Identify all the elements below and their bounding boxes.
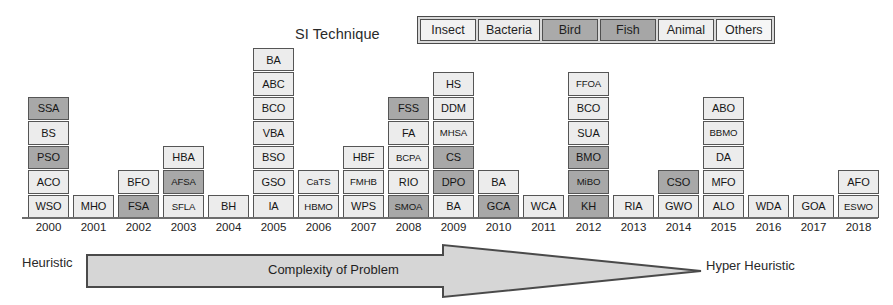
legend-item-bird[interactable]: Bird (542, 19, 598, 41)
year-column-2010: GCABA (478, 169, 519, 218)
year-column-2000: WSOACOPSOBSSSA (28, 96, 69, 218)
year-column-2011: WCA (523, 194, 564, 218)
technique-cell[interactable]: RIA (613, 195, 654, 218)
year-column-2012: KHMiBOBMOSUABCOFFOA (568, 71, 609, 218)
technique-cell[interactable]: WPS (343, 195, 384, 218)
technique-cell[interactable]: HBMO (298, 195, 339, 218)
complexity-arrow-label: Complexity of Problem (268, 262, 399, 277)
technique-cell[interactable]: SMOA (388, 195, 429, 218)
year-column-2018: ESWOAFO (838, 169, 879, 218)
technique-cell[interactable]: GWO (658, 195, 699, 218)
x-tick-2004: 2004 (208, 221, 249, 233)
technique-cell[interactable]: ESWO (838, 195, 879, 218)
x-tick-2009: 2009 (433, 221, 474, 233)
technique-cell[interactable]: GSO (253, 170, 294, 193)
x-tick-2006: 2006 (298, 221, 339, 233)
x-axis-line (22, 217, 878, 219)
technique-cell[interactable]: RIO (388, 170, 429, 193)
technique-cell[interactable]: PSO (28, 146, 69, 169)
year-column-2002: FSABFO (118, 169, 159, 218)
technique-cell[interactable]: WSO (28, 195, 69, 218)
year-column-2006: HBMOCaTS (298, 169, 339, 218)
technique-cell[interactable]: DDM (433, 97, 474, 120)
technique-cell[interactable]: HS (433, 72, 474, 95)
technique-cell[interactable]: FSA (118, 195, 159, 218)
technique-cell[interactable]: SUA (568, 121, 609, 144)
technique-cell[interactable]: CSO (658, 170, 699, 193)
x-tick-2016: 2016 (748, 221, 789, 233)
technique-cell[interactable]: WDA (748, 195, 789, 218)
technique-cell[interactable]: SFLA (163, 195, 204, 218)
year-column-2007: WPSFMHBHBF (343, 145, 384, 218)
technique-cell[interactable]: DPO (433, 170, 474, 193)
x-tick-2014: 2014 (658, 221, 699, 233)
technique-cell[interactable]: BCO (253, 97, 294, 120)
technique-cell[interactable]: MHSA (433, 121, 474, 144)
technique-cell[interactable]: BS (28, 121, 69, 144)
year-column-2017: GOA (793, 194, 834, 218)
technique-cell[interactable]: AFSA (163, 170, 204, 193)
legend-item-insect[interactable]: Insect (420, 19, 476, 41)
technique-cell[interactable]: ALO (703, 195, 744, 218)
technique-cell[interactable]: VBA (253, 121, 294, 144)
technique-cell[interactable]: KH (568, 195, 609, 218)
x-tick-2010: 2010 (478, 221, 519, 233)
x-tick-2002: 2002 (118, 221, 159, 233)
technique-cell[interactable]: ABC (253, 72, 294, 95)
technique-cell[interactable]: ABO (703, 97, 744, 120)
technique-cell[interactable]: ACO (28, 170, 69, 193)
x-tick-2017: 2017 (793, 221, 834, 233)
complexity-arrow-band: Heuristic Hyper Heuristic Complexity of … (0, 243, 893, 305)
technique-cell[interactable]: SSA (28, 97, 69, 120)
technique-cell[interactable]: BH (208, 195, 249, 218)
x-tick-2012: 2012 (568, 221, 609, 233)
technique-cell[interactable]: MHO (73, 195, 114, 218)
x-axis-tick-labels: 2000200120022003200420052006200720082009… (0, 221, 893, 239)
technique-cell[interactable]: FFOA (568, 72, 609, 95)
legend-item-others[interactable]: Others (716, 19, 772, 41)
technique-cell[interactable]: BA (253, 48, 294, 71)
x-tick-2018: 2018 (838, 221, 879, 233)
x-tick-2003: 2003 (163, 221, 204, 233)
technique-cell[interactable]: CS (433, 146, 474, 169)
x-tick-2011: 2011 (523, 221, 564, 233)
year-column-2009: BADPOCSMHSADDMHS (433, 71, 474, 218)
technique-cell[interactable]: BA (478, 170, 519, 193)
technique-cell[interactable]: BFO (118, 170, 159, 193)
technique-cell[interactable]: FA (388, 121, 429, 144)
legend-title: SI Technique (295, 26, 380, 42)
technique-cell[interactable]: AFO (838, 170, 879, 193)
technique-cell[interactable]: BMO (568, 146, 609, 169)
x-tick-2008: 2008 (388, 221, 429, 233)
technique-cell[interactable]: FMHB (343, 170, 384, 193)
technique-cell[interactable]: WCA (523, 195, 564, 218)
technique-cell[interactable]: GCA (478, 195, 519, 218)
legend-item-bacteria[interactable]: Bacteria (478, 19, 540, 41)
technique-cell[interactable]: DA (703, 146, 744, 169)
figure-canvas: SI Technique InsectBacteriaBirdFishAnima… (0, 0, 893, 305)
technique-cell[interactable]: FSS (388, 97, 429, 120)
technique-cell[interactable]: BBMO (703, 121, 744, 144)
x-tick-2013: 2013 (613, 221, 654, 233)
technique-cell[interactable]: CaTS (298, 170, 339, 193)
technique-cell[interactable]: HBF (343, 146, 384, 169)
technique-cell[interactable]: BCO (568, 97, 609, 120)
legend-item-fish[interactable]: Fish (600, 19, 656, 41)
technique-cell[interactable]: BCPA (388, 146, 429, 169)
technique-cell[interactable]: BA (433, 195, 474, 218)
year-column-2005: IAGSOBSOVBABCOABCBA (253, 47, 294, 218)
year-column-2015: ALOMFODABBMOABO (703, 96, 744, 218)
year-column-2013: RIA (613, 194, 654, 218)
x-tick-2015: 2015 (703, 221, 744, 233)
x-tick-2000: 2000 (28, 221, 69, 233)
x-tick-2007: 2007 (343, 221, 384, 233)
technique-cell[interactable]: BSO (253, 146, 294, 169)
x-tick-2005: 2005 (253, 221, 294, 233)
technique-cell[interactable]: GOA (793, 195, 834, 218)
technique-cell[interactable]: MiBO (568, 170, 609, 193)
technique-cell[interactable]: MFO (703, 170, 744, 193)
technique-cell[interactable]: IA (253, 195, 294, 218)
year-column-2003: SFLAAFSAHBA (163, 145, 204, 218)
technique-cell[interactable]: HBA (163, 146, 204, 169)
legend-item-animal[interactable]: Animal (658, 19, 714, 41)
